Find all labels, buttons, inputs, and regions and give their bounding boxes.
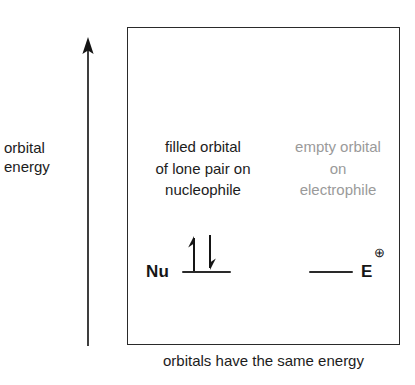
up-arrow-icon [76,34,102,348]
spin-down-arrow-icon [210,235,216,270]
caption-filled-orbital: filled orbital of lone pair on nucleophi… [130,136,276,201]
orbital-captions: filled orbital of lone pair on nucleophi… [127,136,400,208]
electron-pair-arrows [186,234,222,272]
axis-label-orbital-energy: orbital energy [4,138,90,176]
species-label-e: E [361,262,373,282]
spin-up-arrow-icon [188,236,194,271]
energy-axis [76,34,102,348]
figure-caption: orbitals have the same energy [127,352,400,369]
species-label-nu: Nu [146,262,169,282]
orbital-energy-diagram: orbital energy filled orbital of lone pa… [0,0,415,385]
caption-empty-orbital: empty orbital on electrophile [276,136,400,201]
positive-charge-icon: ⊕ [374,245,385,260]
